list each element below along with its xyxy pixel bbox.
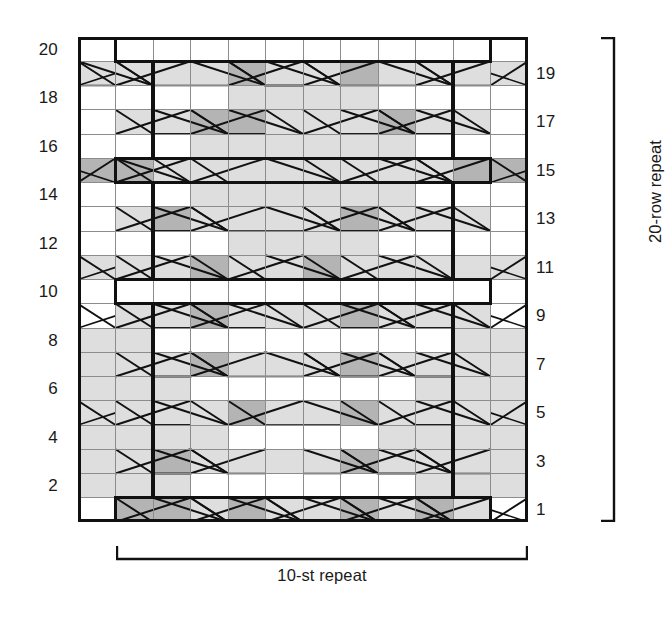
row-number-label: 20 [39,41,58,58]
cell-fill [153,377,191,402]
cell-fill [416,207,454,232]
chart-page: 2018161412108642 191715131197531 10-st r… [0,0,670,624]
cell-fill [341,207,379,232]
row-number-label: 18 [39,89,58,106]
cell-fill [341,183,379,208]
cell-fill [303,183,341,208]
cell-fill [191,61,229,86]
cell-fill [266,231,304,256]
row-number-label: 2 [48,477,58,494]
cell-fill [153,352,191,377]
cell-fill [341,231,379,256]
cell-fill [416,377,454,402]
cell-fill [266,401,304,426]
cell-fill [303,231,341,256]
cell-fill [266,255,304,280]
row-number-label: 17 [536,113,555,130]
cell-fill [228,207,266,232]
cell-fill [228,183,266,208]
cell-fill [78,352,116,377]
row-repeat-caption: 20-row repeat [646,97,665,287]
cell-fill [266,449,304,474]
cell-fill [378,449,416,474]
cell-fill [153,255,191,280]
row-number-label: 13 [536,210,555,227]
cell-fill [228,352,266,377]
cell-fill [378,158,416,183]
cell-fill [341,352,379,377]
cable-half-line [78,316,116,328]
cell-fill [228,158,266,183]
cell-fill [416,425,454,450]
cell-fill [153,401,191,426]
cell-fill [378,183,416,208]
row-number-label: 7 [536,356,546,373]
stitch-repeat-caption: 10-st repeat [116,566,528,585]
cell-fill [341,134,379,159]
row-number-label: 16 [39,138,58,155]
cell-fill [341,86,379,111]
cell-fill [191,183,229,208]
cell-fill [341,304,379,329]
cell-fill [378,134,416,159]
cell-fill [266,183,304,208]
cell-fill [266,352,304,377]
cell-fill [416,352,454,377]
cell-fill [303,86,341,111]
cell-fill [491,449,529,474]
cable-half-line [491,316,529,328]
cell-fill [266,61,304,86]
cell-fill [453,449,491,474]
cell-fill [303,401,341,426]
cell-fill [78,474,116,499]
row-number-label: 8 [48,332,58,349]
row-number-label: 6 [48,380,58,397]
cell-fill [378,61,416,86]
cell-fill [228,304,266,329]
cell-fill [228,134,266,159]
cell-fill [116,474,154,499]
cell-fill [116,328,154,353]
row-number-label: 10 [39,283,58,300]
cell-fill [378,425,416,450]
cell-fill [341,110,379,135]
cell-fill [153,61,191,86]
cell-fill [266,86,304,111]
cell-fill [416,401,454,426]
chart-grid-svg [78,37,528,522]
cell-fill [453,474,491,499]
cell-fill [303,134,341,159]
cell-fill [78,328,116,353]
row-number-label: 1 [536,501,546,518]
row-repeat-bracket [600,37,616,522]
cell-fill [453,425,491,450]
cell-fill [416,110,454,135]
cell-fill [303,498,341,522]
stitch-repeat-bracket [116,545,528,561]
row-number-label: 3 [536,453,546,470]
cell-fill [453,255,491,280]
cell-fill [266,207,304,232]
cell-fill [378,255,416,280]
cell-fill [303,449,341,474]
cell-fill [453,61,491,86]
cell-fill [116,425,154,450]
cell-fill [491,474,529,499]
cell-fill [78,425,116,450]
cell-fill [453,377,491,402]
cell-fill [228,86,266,111]
cell-fill [78,449,116,474]
cell-fill [491,425,529,450]
row-number-label: 19 [536,65,555,82]
cell-fill [153,425,191,450]
cell-fill [416,474,454,499]
cell-fill [266,134,304,159]
cell-fill [191,134,229,159]
row-number-label: 15 [536,162,555,179]
cell-fill [116,377,154,402]
cell-fill [78,377,116,402]
cell-fill [153,449,191,474]
cell-fill [153,110,191,135]
cell-fill [378,498,416,522]
cell-fill [453,498,491,522]
